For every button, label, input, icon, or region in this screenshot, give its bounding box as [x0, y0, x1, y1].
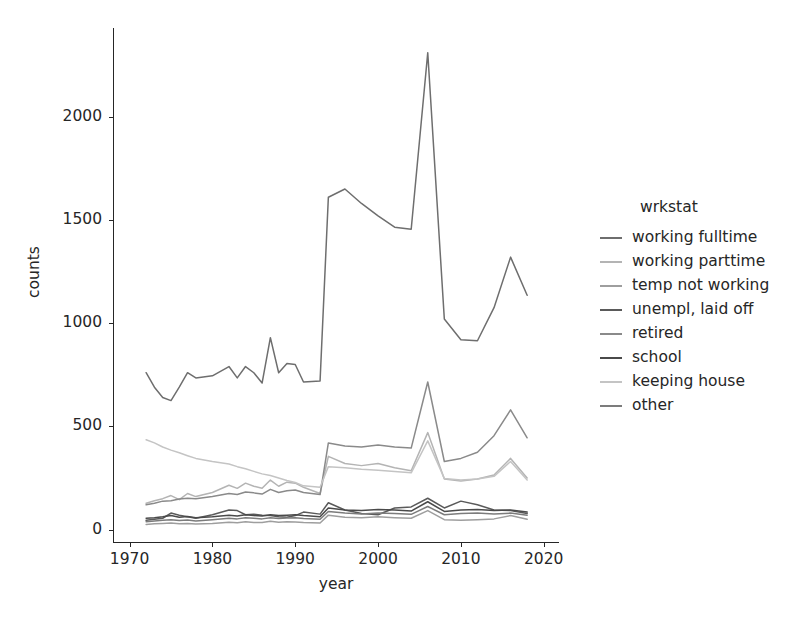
y-tick-label: 1500 — [63, 212, 102, 228]
legend-line-icon — [600, 261, 622, 263]
plot-area — [113, 28, 552, 542]
legend-line-icon — [600, 237, 622, 239]
y-axis-label: counts — [25, 232, 43, 312]
x-tick-label: 1990 — [260, 552, 330, 568]
series-line — [146, 440, 527, 487]
legend-item[interactable]: unempl, laid off — [600, 298, 780, 322]
chart-figure: 0500100015002000 19701980199020002010202… — [0, 0, 785, 625]
legend-item[interactable]: working fulltime — [600, 226, 780, 250]
legend-line-icon — [600, 381, 622, 383]
legend-line-icon — [600, 357, 622, 359]
y-tick-label: 500 — [72, 418, 102, 434]
legend-item-label: school — [632, 350, 682, 366]
legend-item-label: other — [632, 398, 673, 414]
legend-item[interactable]: school — [600, 346, 780, 370]
legend-item-label: keeping house — [632, 374, 745, 390]
legend-item-label: unempl, laid off — [632, 302, 753, 318]
y-tick-label: 2000 — [63, 109, 102, 125]
y-tick-label: 0 — [92, 522, 102, 538]
x-axis-label: year — [296, 575, 376, 593]
x-tick-label: 1980 — [177, 552, 247, 568]
series-line — [146, 382, 527, 505]
legend: wrkstat working fulltimeworking parttime… — [600, 198, 780, 418]
series-lines — [113, 28, 552, 542]
series-line — [146, 53, 527, 401]
x-tick-mark — [212, 543, 213, 547]
legend-item[interactable]: temp not working — [600, 274, 780, 298]
legend-items: working fulltimeworking parttimetemp not… — [600, 226, 780, 418]
x-axis-spine — [113, 542, 559, 543]
x-tick-label: 2010 — [426, 552, 496, 568]
legend-item[interactable]: working parttime — [600, 250, 780, 274]
legend-title: wrkstat — [640, 198, 780, 216]
legend-line-icon — [600, 333, 622, 335]
x-tick-label: 2000 — [343, 552, 413, 568]
y-tick-label: 1000 — [63, 315, 102, 331]
x-tick-mark — [130, 543, 131, 547]
legend-line-icon — [600, 405, 622, 407]
x-tick-mark — [295, 543, 296, 547]
legend-item-label: temp not working — [632, 278, 769, 294]
legend-item[interactable]: keeping house — [600, 370, 780, 394]
x-tick-label: 1970 — [95, 552, 165, 568]
legend-item-label: working parttime — [632, 254, 765, 270]
legend-item[interactable]: retired — [600, 322, 780, 346]
x-tick-label: 2020 — [509, 552, 579, 568]
legend-line-icon — [600, 285, 622, 287]
x-tick-mark — [461, 543, 462, 547]
x-tick-mark — [544, 543, 545, 547]
legend-item-label: working fulltime — [632, 230, 757, 246]
legend-line-icon — [600, 309, 622, 311]
x-tick-mark — [378, 543, 379, 547]
legend-item-label: retired — [632, 326, 683, 342]
legend-item[interactable]: other — [600, 394, 780, 418]
